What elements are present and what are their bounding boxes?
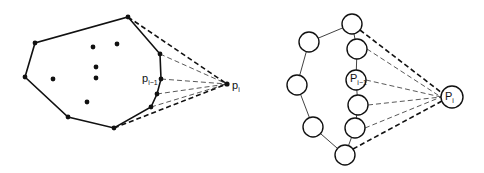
hull-vertex [112,126,117,131]
right-circle-hull-diagram: Pi−1Pi [287,14,463,165]
tangent-line-thin [367,49,441,97]
disk [347,39,367,59]
tangent-line-thin [365,97,441,128]
hull-vertex [155,92,160,97]
tangent-line-bold [360,30,442,93]
hull-vertex [159,77,164,82]
disk [342,14,362,34]
new-point [224,81,229,86]
disk [345,118,365,138]
disk [287,75,307,95]
diagram-canvas: pi−1pi Pi−1Pi [0,0,484,173]
hull-vertex [23,75,28,80]
interior-point [51,77,56,82]
hull-vertex [158,52,163,57]
disk [348,95,368,115]
interior-point [85,100,90,105]
hull-polygon [25,17,161,128]
interior-point [94,65,99,70]
disk [299,32,319,52]
interior-point [115,42,120,47]
interior-point [91,45,96,50]
tangent-line-thin [157,84,227,94]
tangent-line-thin [368,97,441,105]
hull-vertex [126,15,131,20]
tangent-line-thin [366,80,441,97]
label-p-prev: pi−1 [142,72,158,86]
tangent-line-bold [114,84,227,128]
disk [303,117,323,137]
tangent-line-thin [161,79,227,84]
interior-point [94,76,99,81]
label-p-new: pi [232,79,240,93]
hull-vertex [149,105,154,110]
hull-vertex [33,41,38,46]
tangent-line-thin [151,84,227,107]
left-convex-hull-diagram: pi−1pi [23,15,241,131]
disk [335,145,355,165]
hull-vertex [66,115,71,120]
